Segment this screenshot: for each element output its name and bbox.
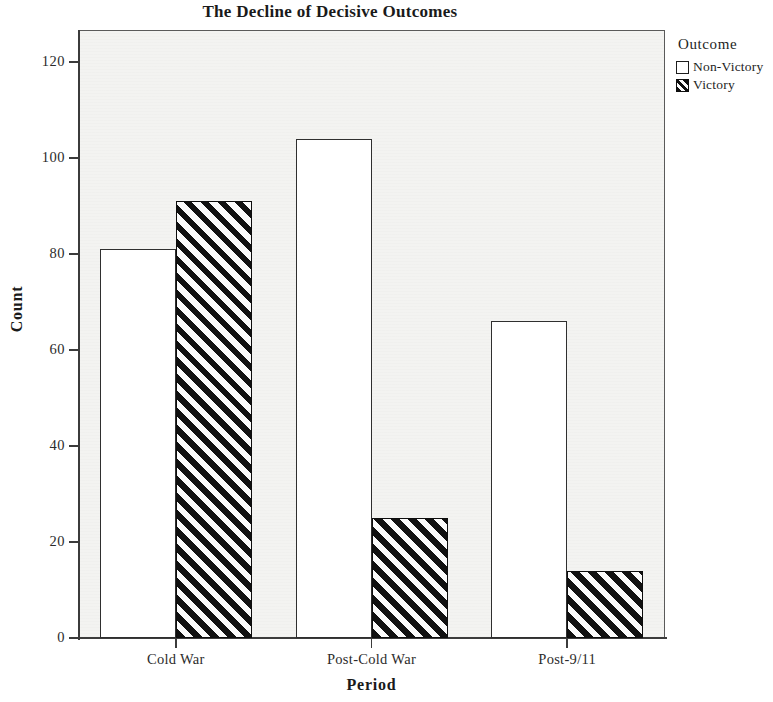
x-axis-tick	[371, 639, 373, 648]
x-axis-tick	[175, 639, 177, 648]
legend-label: Non-Victory	[693, 59, 763, 75]
y-axis-tick	[69, 637, 78, 639]
chart-title: The Decline of Decisive Outcomes	[0, 2, 660, 22]
y-axis-tick	[69, 349, 78, 351]
legend-swatch-icon	[676, 79, 689, 92]
x-axis-tick	[566, 639, 568, 648]
legend-item: Non-Victory	[676, 59, 773, 75]
legend-item: Victory	[676, 77, 773, 93]
y-axis-tick	[69, 445, 78, 447]
x-axis-tick-label: Cold War	[76, 652, 276, 668]
bar-victory-cold-war	[176, 201, 252, 638]
bar-non-victory-cold-war	[100, 249, 176, 638]
bar-chart-figure: The Decline of Decisive Outcomes 0204060…	[0, 0, 773, 702]
y-axis-tick-label: 120	[5, 54, 65, 69]
y-axis-tick-label: 20	[5, 534, 65, 549]
y-axis-tick	[69, 253, 78, 255]
bar-victory-post-cold-war	[372, 518, 448, 638]
y-axis-line	[78, 30, 80, 640]
y-axis-tick-label: 40	[5, 438, 65, 453]
bar-non-victory-post-9-11	[491, 321, 567, 638]
y-axis-tick-label: 100	[5, 150, 65, 165]
y-axis-tick	[69, 61, 78, 63]
legend-label: Victory	[693, 77, 735, 93]
legend: Outcome Non-VictoryVictory	[676, 36, 773, 95]
y-axis-tick	[69, 541, 78, 543]
x-axis-tick-label: Post-Cold War	[272, 652, 472, 668]
legend-items: Non-VictoryVictory	[676, 59, 773, 93]
legend-title: Outcome	[678, 36, 773, 53]
y-axis-title: Count	[8, 259, 26, 359]
x-axis-tick-label: Post-9/11	[467, 652, 667, 668]
y-axis-tick-label: 0	[5, 630, 65, 645]
legend-swatch-icon	[676, 61, 689, 74]
y-axis-tick	[69, 157, 78, 159]
bar-non-victory-post-cold-war	[296, 139, 372, 638]
bar-victory-post-9-11	[567, 571, 643, 638]
x-axis-title: Period	[78, 676, 665, 694]
